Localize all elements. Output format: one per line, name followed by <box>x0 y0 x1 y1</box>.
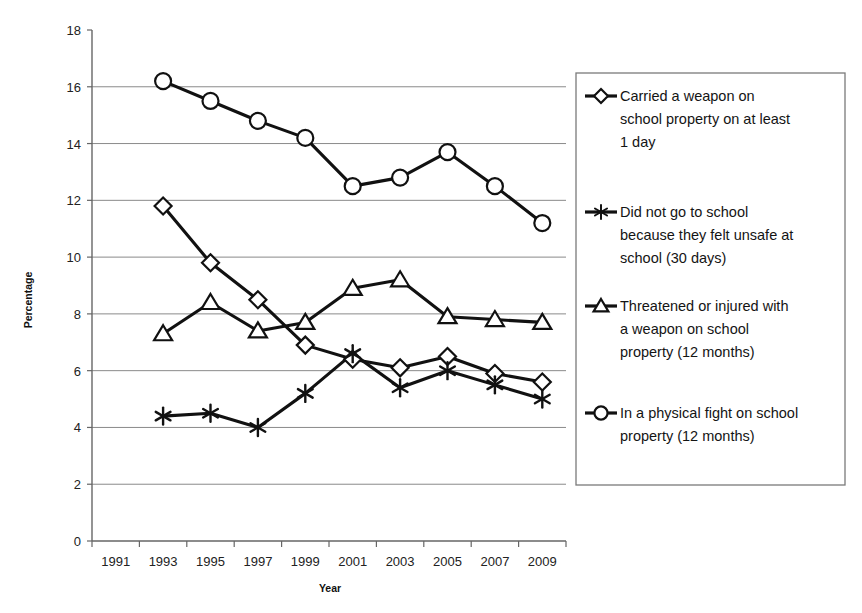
x-tick-label: 1995 <box>196 554 225 569</box>
data-point-circle <box>534 215 550 231</box>
data-point-diamond <box>392 359 409 376</box>
data-point-diamond <box>534 374 551 391</box>
data-point-circle <box>487 178 503 194</box>
legend-label-line: property (12 months) <box>620 428 755 444</box>
x-tick-labels-group: 1991199319951997199920012003200520072009 <box>101 554 557 569</box>
data-point-circle <box>392 170 408 186</box>
legend-label-line: because they felt unsafe at <box>620 227 793 243</box>
legend-box <box>576 73 845 485</box>
data-point-triangle <box>202 294 220 309</box>
y-tick-label: 8 <box>74 307 81 322</box>
y-tick-label: 16 <box>67 80 81 95</box>
legend-label-line: school property on at least <box>620 111 790 127</box>
series-markers-asterisk <box>156 345 550 436</box>
data-point-triangle <box>391 271 409 286</box>
y-tick-label: 12 <box>67 193 81 208</box>
data-series-group <box>154 73 551 436</box>
y-axis-title: Percentage <box>22 272 34 329</box>
y-tick-label: 0 <box>74 534 81 549</box>
legend-label-line: school (30 days) <box>620 250 726 266</box>
data-point-circle <box>250 113 266 129</box>
legend-label-line: Carried a weapon on <box>620 88 755 104</box>
x-tick-label: 2005 <box>433 554 462 569</box>
x-tick-label: 1997 <box>243 554 272 569</box>
x-tick-label: 1991 <box>101 554 130 569</box>
y-tick-label: 6 <box>74 364 81 379</box>
x-tick-label: 2009 <box>528 554 557 569</box>
data-point-asterisk <box>393 379 408 396</box>
data-point-circle <box>440 144 456 160</box>
x-tick-label: 2007 <box>480 554 509 569</box>
data-point-circle <box>155 73 171 89</box>
x-tick-label: 1993 <box>149 554 178 569</box>
data-point-circle <box>345 178 361 194</box>
x-axis-title: Year <box>319 582 341 594</box>
y-tick-labels-group: 181614121086420 <box>67 23 81 549</box>
y-tick-label: 2 <box>74 477 81 492</box>
series-markers-circle <box>155 73 550 231</box>
chart-container: 181614121086420 199119931995199719992001… <box>0 0 862 613</box>
x-tick-label: 1999 <box>291 554 320 569</box>
data-point-circle <box>297 130 313 146</box>
axis-ticks-group <box>87 30 566 547</box>
legend-label-line: 1 day <box>620 134 656 150</box>
series-markers-triangle <box>154 271 551 340</box>
y-tick-label: 4 <box>74 420 81 435</box>
y-tick-label: 10 <box>67 250 81 265</box>
legend-label-line: property (12 months) <box>620 344 755 360</box>
x-tick-label: 2003 <box>386 554 415 569</box>
y-tick-label: 14 <box>67 137 81 152</box>
line-chart-svg: 181614121086420 199119931995199719992001… <box>0 0 862 613</box>
y-tick-label: 18 <box>67 23 81 38</box>
series-line-circle <box>163 81 542 223</box>
data-point-circle <box>203 93 219 109</box>
legend-marker-circle-icon <box>594 406 607 419</box>
legend-label-line: In a physical fight on school <box>620 405 798 421</box>
x-tick-label: 2001 <box>338 554 367 569</box>
series-circle <box>163 81 542 223</box>
legend-label-line: Threatened or injured with <box>620 298 788 314</box>
legend-label-line: a weapon on school <box>620 321 749 337</box>
legend-label-line: Did not go to school <box>620 204 748 220</box>
data-point-triangle <box>154 325 172 340</box>
